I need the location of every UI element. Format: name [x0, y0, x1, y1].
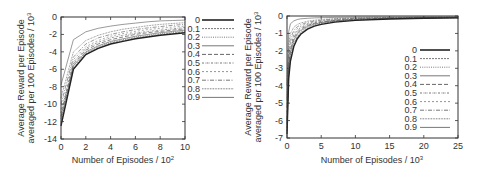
series-line-0-7: [61, 24, 185, 104]
y-tick-label: -4: [275, 81, 283, 91]
y-tick-label: -2: [275, 46, 283, 56]
chart-right: 05101520250-1-2-3-4-5-6-7 Number of Epis…: [243, 11, 463, 165]
x-tick-label: 8: [158, 142, 163, 152]
y-tick-label: -10: [44, 99, 57, 109]
chart-left-lines: [61, 20, 185, 126]
x-tick-label: 2: [83, 142, 88, 152]
chart-left-ylabel-line2: averaged per 100 Episodes / 103: [26, 12, 36, 144]
legend-item-0: 0: [195, 15, 234, 25]
chart-right-legend: 00.10.20.30.40.50.60.70.80.9: [404, 45, 450, 132]
x-tick-label: 0: [58, 142, 63, 152]
y-tick-label: -6: [49, 64, 57, 74]
x-tick-label: 10: [350, 141, 360, 151]
y-tick-label: -7: [275, 133, 283, 143]
y-tick-label: -14: [44, 134, 57, 144]
series-line-0-3: [61, 30, 185, 119]
legend-label: 0.9: [187, 92, 200, 102]
y-tick-label: -5: [275, 98, 283, 108]
y-tick-label: 0: [278, 11, 283, 21]
series-line-0-4: [287, 18, 458, 121]
series-line-0: [61, 33, 185, 126]
y-tick-label: -3: [275, 63, 283, 73]
y-tick-label: -8: [49, 82, 57, 92]
figure: 02468100-2-4-6-8-10-12-14 Number of Epis…: [0, 0, 479, 177]
chart-right-ylabel-line2: averaged per 100 Episodes / 103: [253, 11, 263, 143]
x-tick-label: 20: [419, 141, 429, 151]
y-tick-label: -4: [49, 47, 57, 57]
series-line-0-3: [287, 18, 458, 125]
y-tick-label: -12: [44, 117, 57, 127]
chart-left: 02468100-2-4-6-8-10-12-14 Number of Epis…: [16, 12, 234, 165]
x-tick-label: 0: [284, 141, 289, 151]
figure-canvas: 02468100-2-4-6-8-10-12-14 Number of Epis…: [0, 0, 479, 177]
legend-label: 0.9: [404, 122, 417, 132]
x-tick-label: 15: [385, 141, 395, 151]
chart-left-xlabel: Number of Episodes / 102: [72, 155, 175, 165]
y-tick-label: 0: [52, 12, 57, 22]
y-tick-label: -2: [49, 29, 57, 39]
chart-right-frame: [287, 16, 458, 138]
x-tick-label: 6: [133, 142, 138, 152]
chart-left-legend: 00.10.20.30.40.50.60.70.80.9: [187, 15, 234, 102]
series-line-0-2: [287, 18, 458, 128]
series-line-0-9: [61, 20, 185, 85]
legend-item-0: 0: [412, 45, 450, 55]
x-tick-label: 5: [319, 141, 324, 151]
series-line-0-6: [287, 17, 458, 112]
series-line-0-5: [287, 17, 458, 117]
y-tick-label: -1: [275, 28, 283, 38]
series-line-0-2: [61, 31, 185, 122]
x-tick-label: 25: [453, 141, 463, 151]
chart-right-xlabel: Number of Episodes / 103: [321, 155, 424, 165]
series-line-0-1: [61, 32, 185, 124]
legend-item-0-9: 0.9: [187, 92, 234, 102]
x-tick-label: 10: [180, 142, 190, 152]
x-tick-label: 4: [108, 142, 113, 152]
y-tick-label: -6: [275, 116, 283, 126]
series-line-0-1: [287, 18, 458, 131]
chart-right-ylabel-line1: Average Reward per Episode: [243, 18, 253, 135]
legend-item-0-9: 0.9: [404, 122, 450, 132]
chart-left-ylabel-line1: Average Reward per Episode: [16, 19, 26, 136]
